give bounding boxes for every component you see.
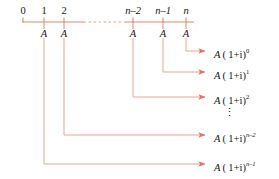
formula-open-paren-2: ( xyxy=(223,95,227,106)
formula-future-value-n-minus-1: A(1+i)n–1 xyxy=(214,161,255,173)
formula-open-paren-3: ( xyxy=(223,133,227,144)
formula-exponent-4: n–1 xyxy=(246,160,256,167)
formula-future-value-n-minus-2: A(1+i)n–2 xyxy=(214,132,255,144)
period-label-0: 0 xyxy=(20,6,25,17)
elbow-arrow-4 xyxy=(44,38,205,164)
formula-inner-1: 1+i xyxy=(228,70,242,81)
formula-future-value-0: A(1+i)0 xyxy=(214,48,249,60)
payment-label-period-2: A xyxy=(61,29,67,40)
formula-inner-4: 1+i xyxy=(228,162,242,173)
payment-label-period-n-minus-1: A xyxy=(160,29,166,40)
formula-base-2: A xyxy=(214,95,220,106)
formula-open-paren-1: ( xyxy=(223,70,227,81)
formula-inner-3: 1+i xyxy=(228,133,242,144)
compounding-elbow-arrows xyxy=(44,38,205,164)
period-label-n: n xyxy=(183,6,188,17)
payment-label-period-n-minus-2: A xyxy=(130,29,136,40)
formula-future-value-1: A(1+i)1 xyxy=(214,69,249,81)
timeline-ticks xyxy=(23,18,186,23)
payment-label-period-1: A xyxy=(41,29,47,40)
formula-exponent-1: 1 xyxy=(246,68,249,75)
elbow-arrow-1 xyxy=(163,38,205,72)
formula-exponent-0: 0 xyxy=(246,47,249,54)
period-label-n-minus-1: n–1 xyxy=(155,6,171,17)
elbow-arrow-2 xyxy=(133,38,205,97)
elbow-arrow-3 xyxy=(64,38,205,135)
formula-inner-0: 1+i xyxy=(228,49,242,60)
formula-base-3: A xyxy=(214,133,220,144)
period-label-n-minus-2: n–2 xyxy=(125,6,141,17)
formula-exponent-3: n–2 xyxy=(246,131,256,138)
formula-open-paren-0: ( xyxy=(223,49,227,60)
formula-base-0: A xyxy=(214,49,220,60)
formula-future-value-2: A(1+i)2 xyxy=(214,94,249,106)
vertical-ellipsis: ⋮ xyxy=(224,107,235,118)
elbow-arrow-0 xyxy=(186,38,205,51)
formula-base-4: A xyxy=(214,162,220,173)
formula-exponent-2: 2 xyxy=(246,93,249,100)
period-label-2: 2 xyxy=(61,6,66,17)
annuity-timeline-diagram: 0 1 2 n–2 n–1 n A A A A A A(1+i)0 A(1+i)… xyxy=(0,0,279,179)
payment-label-period-n: A xyxy=(183,29,189,40)
formula-inner-2: 1+i xyxy=(228,95,242,106)
period-label-1: 1 xyxy=(41,6,46,17)
formula-base-1: A xyxy=(214,70,220,81)
timeline-vector-layer xyxy=(0,0,279,179)
formula-open-paren-4: ( xyxy=(223,162,227,173)
